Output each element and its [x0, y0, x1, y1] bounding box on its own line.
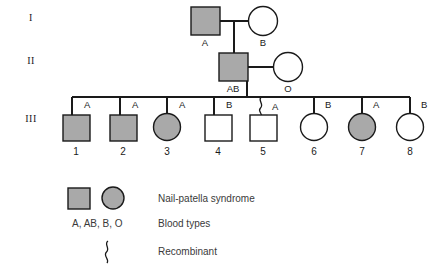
individual-II-1-symbol[interactable] [219, 53, 248, 81]
pedigree-canvas: I II III A B AB O A 1 A [0, 0, 446, 272]
individual-III-5-blood-type: A [272, 101, 279, 112]
individual-III-5-number: 5 [260, 146, 266, 157]
individual-III-1-symbol[interactable] [63, 115, 90, 141]
individual-III-5-symbol[interactable] [250, 115, 277, 141]
legend-blood-type-key: A, AB, B, O [72, 218, 123, 229]
legend-affected-circle-icon [102, 187, 124, 209]
recombinant-stem-line-III-5 [259, 97, 261, 116]
legend-nail-patella-label: Nail-patella syndrome [158, 193, 255, 204]
legend-affected-square-icon [68, 188, 90, 209]
individual-III-2-blood-type: A [132, 99, 139, 110]
generation-label-II: II [27, 55, 35, 66]
individual-III-4-blood-type: B [226, 99, 232, 110]
individual-III-7-symbol[interactable] [349, 114, 376, 141]
individual-III-3-blood-type: A [179, 99, 186, 110]
individual-II-2-symbol[interactable] [274, 53, 303, 82]
individual-III-2-symbol[interactable] [110, 115, 137, 141]
individual-III-7-number: 7 [359, 146, 365, 157]
individual-III-6-blood-type: B [325, 99, 331, 110]
individual-III-1-number: 1 [73, 146, 79, 157]
individual-II-2-blood-type: O [284, 83, 291, 94]
individual-I-1-blood-type: A [202, 37, 209, 48]
individual-III-3-symbol[interactable] [154, 114, 181, 141]
individual-III-4-symbol[interactable] [205, 115, 232, 141]
individual-III-4-number: 4 [215, 146, 221, 157]
legend-recombinant-label: Recombinant [158, 246, 217, 257]
individual-III-6-symbol[interactable] [301, 114, 328, 141]
individual-I-2-symbol[interactable] [249, 7, 278, 36]
individual-III-8-symbol[interactable] [397, 114, 424, 141]
pedigree-figure: I II III A B AB O A 1 A [0, 0, 446, 272]
individual-I-2-blood-type: B [260, 37, 266, 48]
generation-label-III: III [25, 113, 37, 124]
individual-III-3-number: 3 [164, 146, 170, 157]
legend-recombinant-squiggle-icon [105, 241, 108, 263]
individual-I-1-symbol[interactable] [191, 7, 220, 35]
individual-III-1-blood-type: A [84, 99, 91, 110]
individual-III-8-blood-type: B [421, 99, 427, 110]
generation-label-I: I [29, 12, 33, 23]
individual-III-6-number: 6 [311, 146, 317, 157]
individual-III-8-number: 8 [407, 146, 413, 157]
legend-blood-types-label: Blood types [158, 218, 210, 229]
individual-III-2-number: 2 [120, 146, 126, 157]
individual-III-7-blood-type: A [373, 99, 380, 110]
individual-II-1-blood-type: AB [227, 83, 240, 94]
